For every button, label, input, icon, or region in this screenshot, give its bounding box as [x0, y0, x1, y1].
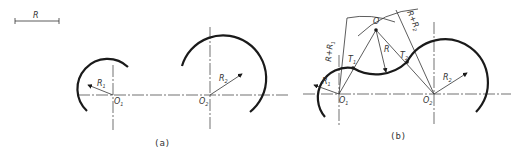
label-t1: T1	[348, 55, 356, 65]
radius-label-r-b: R	[384, 45, 390, 54]
label-t2: T2	[400, 51, 408, 61]
tangent-arc-construction-diagram: R R1 O1 R2 O2 (a) R+R1 R+R2 R	[0, 0, 516, 150]
construction-arc-1	[347, 16, 395, 22]
scale-bar: R	[15, 11, 59, 24]
caption-a: (a)	[154, 138, 170, 148]
radius-label-r2-b: R2	[443, 73, 452, 83]
center-label-o2-a: O2	[199, 97, 208, 107]
center-label-o1-a: O1	[114, 97, 123, 107]
label-o: O	[373, 17, 379, 26]
line-o-to-o2	[376, 30, 434, 94]
radius-label-r2-a: R2	[219, 74, 228, 84]
caption-b: (b)	[390, 131, 406, 141]
point-o	[374, 28, 378, 32]
radius-label-r1-a: R1	[97, 79, 106, 89]
figure-a: R1 O1 R2 O2 (a)	[77, 27, 290, 148]
scale-bar-label: R	[33, 11, 39, 20]
point-t1	[351, 66, 355, 70]
center-label-o2-b: O2	[423, 96, 432, 106]
dim-label-r-plus-r2: R+R2	[404, 9, 422, 32]
radius-label-r1-b: R1	[322, 77, 331, 87]
center-label-o1-b: O1	[339, 96, 348, 106]
dim-label-r-plus-r1: R+R1	[324, 40, 336, 62]
figure-b: R+R1 R+R2 R O T1 T2 R1 O1 R2 O2 (b)	[303, 9, 511, 141]
